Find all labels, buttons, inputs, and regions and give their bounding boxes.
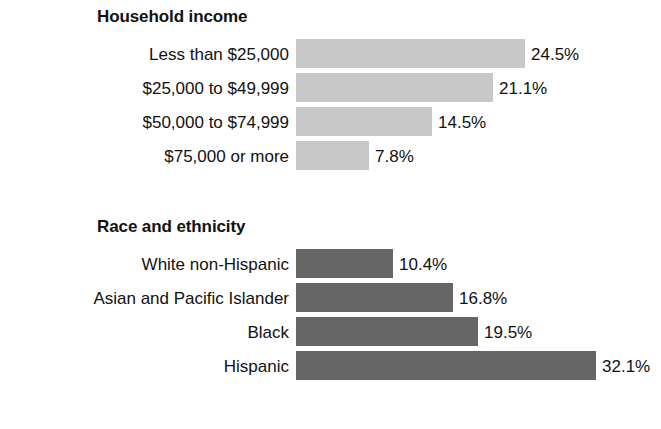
value-label: 14.5% [438, 111, 486, 135]
bar-track [296, 73, 493, 102]
bar [296, 39, 525, 68]
bar-row: Hispanic 32.1% [0, 351, 661, 385]
bar [296, 73, 493, 102]
bar-row: $25,000 to $49,999 21.1% [0, 73, 661, 107]
bar [296, 141, 369, 170]
value-label: 21.1% [499, 77, 547, 101]
value-label: 16.8% [459, 287, 507, 311]
value-label: 24.5% [531, 43, 579, 67]
bar [296, 283, 453, 312]
bar-row: White non-Hispanic 10.4% [0, 249, 661, 283]
bar-row: Black 19.5% [0, 317, 661, 351]
bar-track [296, 249, 393, 278]
category-label: Less than $25,000 [149, 43, 289, 67]
bar-track [296, 283, 453, 312]
bar-track [296, 107, 432, 136]
bar [296, 107, 432, 136]
value-label: 7.8% [375, 145, 414, 169]
bar-track [296, 317, 478, 346]
bar-row: $50,000 to $74,999 14.5% [0, 107, 661, 141]
bar-row: Less than $25,000 24.5% [0, 39, 661, 73]
bar-track [296, 141, 369, 170]
bar-track [296, 39, 525, 68]
category-label: $50,000 to $74,999 [142, 111, 289, 135]
category-label: White non-Hispanic [142, 253, 289, 277]
bar-row: Asian and Pacific Islander 16.8% [0, 283, 661, 317]
bar [296, 317, 478, 346]
panel-title-household-income: Household income [97, 6, 247, 28]
panel-title-race-and-ethnicity: Race and ethnicity [97, 216, 245, 238]
bar [296, 351, 596, 380]
category-label: Hispanic [224, 355, 289, 379]
category-label: Asian and Pacific Islander [93, 287, 289, 311]
value-label: 10.4% [399, 253, 447, 277]
category-label: $75,000 or more [164, 145, 289, 169]
value-label: 32.1% [602, 355, 650, 379]
bar-chart-figure: Household income Less than $25,000 24.5%… [0, 0, 661, 429]
bar-row: $75,000 or more 7.8% [0, 141, 661, 175]
bar-rows-household-income: Less than $25,000 24.5% $25,000 to $49,9… [0, 39, 661, 175]
category-label: Black [247, 321, 289, 345]
bar-track [296, 351, 596, 380]
category-label: $25,000 to $49,999 [142, 77, 289, 101]
bar [296, 249, 393, 278]
bar-rows-race-and-ethnicity: White non-Hispanic 10.4% Asian and Pacif… [0, 249, 661, 385]
value-label: 19.5% [484, 321, 532, 345]
